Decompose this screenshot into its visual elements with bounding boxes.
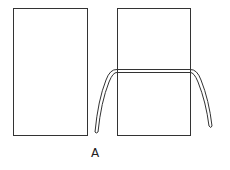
figure-label: A xyxy=(91,146,99,160)
horizontal-band xyxy=(117,70,190,73)
left-panel xyxy=(14,9,88,136)
right-tube xyxy=(190,69,212,127)
diagram xyxy=(0,0,230,170)
left-tube xyxy=(95,69,117,133)
